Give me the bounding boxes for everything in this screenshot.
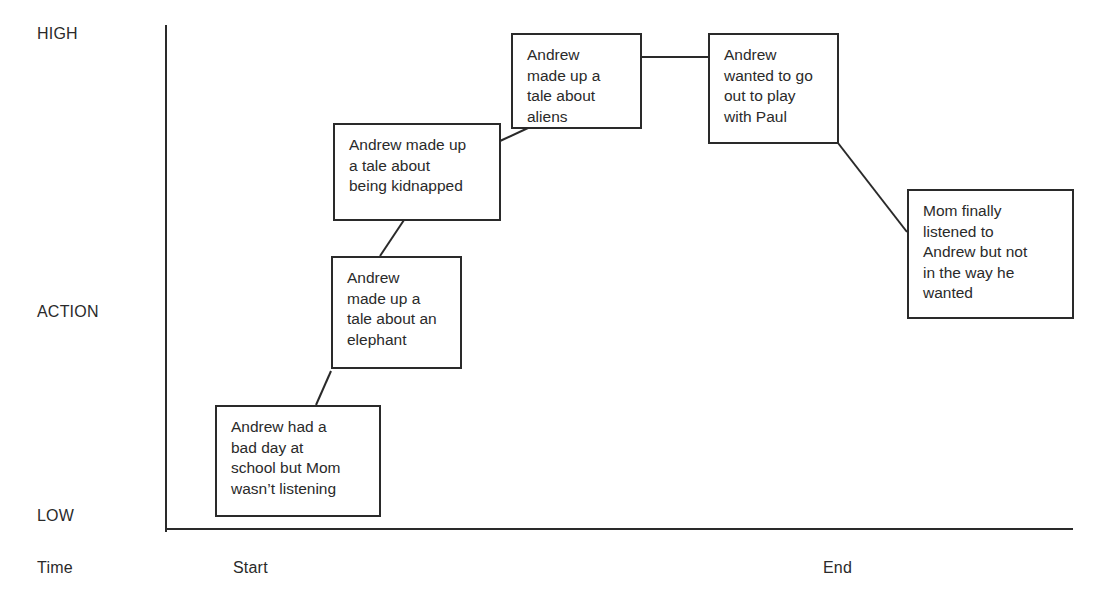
connector-5-6	[838, 143, 907, 232]
y-label-action: ACTION	[37, 303, 99, 321]
event-box-6: Mom finally listened to Andrew but not i…	[907, 189, 1074, 319]
connector-3-4	[500, 128, 528, 141]
event-box-3: Andrew made up a tale about being kidnap…	[333, 123, 501, 221]
y-label-low: LOW	[37, 507, 74, 525]
x-label-end: End	[823, 559, 852, 577]
x-label-start: Start	[233, 559, 268, 577]
event-box-5: Andrew wanted to go out to play with Pau…	[708, 33, 839, 144]
x-label-time: Time	[37, 559, 73, 577]
connector-2-3	[380, 220, 404, 256]
event-box-1: Andrew had a bad day at school but Mom w…	[215, 405, 381, 517]
y-label-high: HIGH	[37, 25, 78, 43]
connector-1-2	[316, 371, 331, 405]
event-box-2: Andrew made up a tale about an elephant	[331, 256, 462, 369]
event-box-4: Andrew made up a tale about aliens	[511, 33, 642, 129]
